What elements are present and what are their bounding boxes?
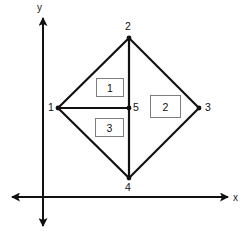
vertex-marker-3 <box>197 106 202 111</box>
edge-1-2 <box>58 38 129 108</box>
vertex-marker-4 <box>127 176 132 181</box>
vertex-label-2: 2 <box>125 21 131 32</box>
vertex-marker-5 <box>127 106 132 111</box>
vertex-label-1: 1 <box>48 102 54 113</box>
geometry-figure: y x 12345 123 <box>0 0 250 244</box>
vertex-label-3: 3 <box>205 102 211 113</box>
vertex-marker-2 <box>127 36 132 41</box>
vertex-label-5: 5 <box>133 102 139 113</box>
region-1-label-box: 1 <box>96 78 124 97</box>
region-2-label-box: 2 <box>150 95 181 118</box>
figure-canvas <box>0 0 250 244</box>
vertex-label-4: 4 <box>125 182 131 193</box>
vertex-marker-1 <box>56 106 61 111</box>
region-3-label-box: 3 <box>95 118 124 137</box>
edge-3-4 <box>129 108 199 178</box>
x-axis-label: x <box>233 192 238 203</box>
y-axis-label: y <box>37 2 42 13</box>
